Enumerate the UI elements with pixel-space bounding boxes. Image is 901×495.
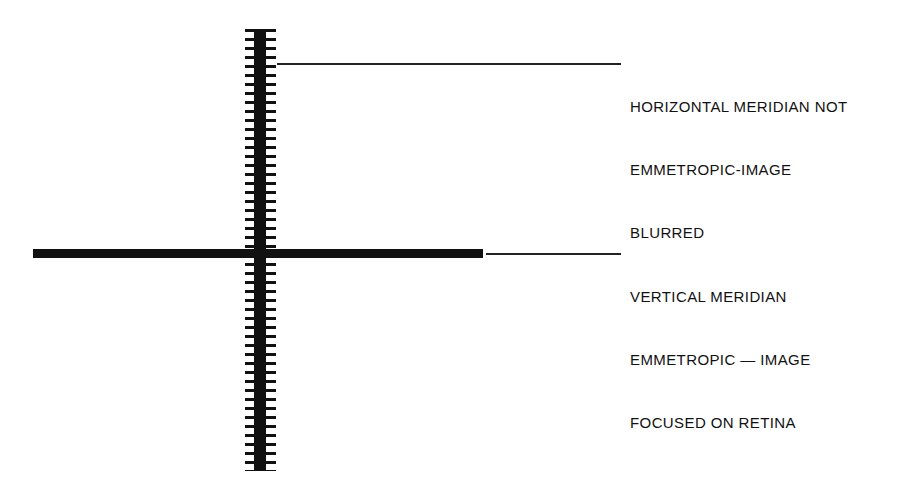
- annotation-vertical-meridian: VERTICAL MERIDIAN EMMETROPIC — IMAGE FOC…: [630, 244, 811, 475]
- annotation-bottom-line-1: VERTICAL MERIDIAN: [630, 286, 811, 307]
- annotation-bottom-line-3: FOCUSED ON RETINA: [630, 412, 811, 433]
- annotation-top-line-2: EMMETROPIC-IMAGE: [630, 159, 848, 180]
- annotation-bottom-line-2: EMMETROPIC — IMAGE: [630, 349, 811, 370]
- leader-line-top: [277, 63, 621, 65]
- astigmatism-meridian-diagram: HORIZONTAL MERIDIAN NOT EMMETROPIC-IMAGE…: [0, 0, 901, 495]
- leader-line-bottom: [486, 253, 621, 255]
- annotation-top-line-3: BLURRED: [630, 222, 848, 243]
- annotation-top-line-1: HORIZONTAL MERIDIAN NOT: [630, 96, 848, 117]
- blurred-vertical-bar-core: [254, 29, 266, 471]
